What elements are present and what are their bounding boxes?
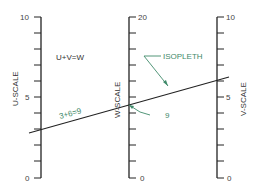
equation-label: U+V=W (56, 53, 84, 62)
w-tick-label-0: 0 (140, 174, 145, 183)
nomogram-diagram: 10 5 0 U-SCALE 20 0 W-SCALE (0, 0, 265, 193)
u-tick-label-5: 5 (25, 93, 30, 102)
w-tick-label-20: 20 (138, 13, 147, 22)
w-scale-label: W-SCALE (113, 82, 122, 118)
result-label: 9 (165, 111, 170, 120)
isopleth-callout: ISOPLETH (144, 52, 203, 86)
w-scale: 20 0 W-SCALE (113, 13, 147, 183)
v-scale: 10 5 0 V-SCALE (217, 13, 248, 183)
u-scale: 10 5 0 U-SCALE (11, 13, 41, 183)
v-tick-label-5: 5 (226, 93, 231, 102)
v-scale-label: V-SCALE (239, 82, 248, 116)
u-scale-label: U-SCALE (11, 71, 20, 106)
u-tick-label-10: 10 (20, 13, 29, 22)
isopleth-label: ISOPLETH (163, 52, 203, 61)
v-tick-label-0: 0 (227, 174, 232, 183)
u-tick-label-0: 0 (25, 174, 30, 183)
v-tick-label-10: 10 (226, 13, 235, 22)
